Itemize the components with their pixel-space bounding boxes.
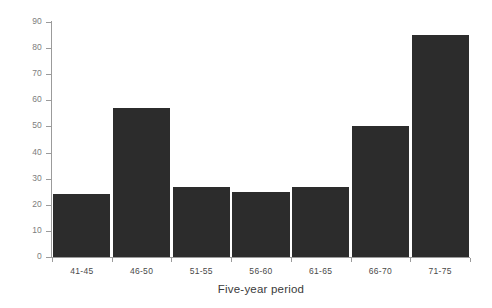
x-axis-title: Five-year period	[52, 283, 470, 295]
y-axis-tick-label: 50	[32, 120, 42, 130]
plot-area	[52, 22, 470, 257]
bar	[352, 126, 409, 257]
x-axis-tick	[52, 258, 53, 262]
y-axis-tick-label: 90	[32, 16, 42, 26]
x-axis-tick	[112, 258, 113, 262]
y-axis-tick: 50	[46, 126, 51, 127]
y-axis-tick-label: 20	[32, 199, 42, 209]
x-axis-tick	[470, 258, 471, 262]
x-axis-tick-label: 41-45	[52, 266, 112, 276]
bar	[53, 194, 110, 257]
x-axis-tick	[231, 258, 232, 262]
x-axis-tick-label: 56-60	[231, 266, 291, 276]
x-axis-tick	[291, 258, 292, 262]
y-axis-tick-label: 10	[32, 225, 42, 235]
bar-chart: Number of birds 0102030405060708090 41-4…	[0, 0, 492, 308]
y-axis-tick: 90	[46, 22, 51, 23]
x-axis-tick-label: 46-50	[112, 266, 172, 276]
y-axis-tick: 40	[46, 153, 51, 154]
x-axis-tick-label: 61-65	[291, 266, 351, 276]
x-axis-tick-label: 71-75	[410, 266, 470, 276]
y-axis-tick: 20	[46, 205, 51, 206]
y-axis-tick-label: 70	[32, 68, 42, 78]
bar	[173, 187, 230, 258]
x-axis-tick	[410, 258, 411, 262]
bar	[292, 187, 349, 258]
y-axis-tick: 70	[46, 74, 51, 75]
bar	[412, 35, 469, 257]
bar	[232, 192, 289, 257]
y-axis-tick-label: 80	[32, 42, 42, 52]
y-axis-tick-label: 60	[32, 94, 42, 104]
y-axis-tick: 0	[46, 257, 51, 258]
x-axis-line	[51, 257, 470, 258]
bar	[113, 108, 170, 257]
y-axis-tick: 60	[46, 100, 51, 101]
x-axis-tick-label: 66-70	[351, 266, 411, 276]
y-axis-tick-label: 40	[32, 147, 42, 157]
y-axis-tick-label: 0	[37, 251, 42, 261]
y-axis-tick-label: 30	[32, 173, 42, 183]
x-axis-tick	[351, 258, 352, 262]
y-axis-tick: 10	[46, 231, 51, 232]
x-axis-tick	[171, 258, 172, 262]
y-axis-tick: 30	[46, 179, 51, 180]
x-axis-tick-label: 51-55	[171, 266, 231, 276]
y-axis-title: Number of birds	[0, 0, 22, 22]
y-axis-tick: 80	[46, 48, 51, 49]
